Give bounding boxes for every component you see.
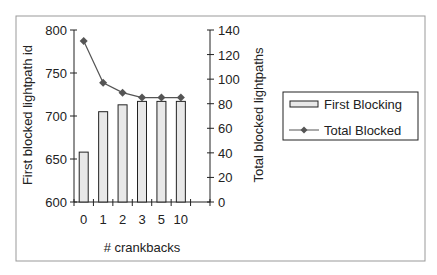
y-right-tick-label: 40 — [218, 146, 232, 161]
x-tick-label: 0 — [80, 212, 87, 227]
y-right-tick-label: 0 — [218, 195, 225, 210]
y-axis-left-label: First blocked lightpath id — [20, 45, 35, 185]
y-right-tick-label: 80 — [218, 97, 232, 112]
bar — [118, 105, 127, 202]
y-left-tick-label: 600 — [45, 195, 67, 210]
legend-bar-swatch — [290, 101, 318, 107]
bar — [157, 101, 166, 202]
y-right-tick-label: 100 — [218, 72, 240, 87]
x-tick-label: 5 — [158, 212, 165, 227]
x-axis-label: # crankbacks — [104, 240, 181, 255]
y-left-tick-label: 800 — [45, 23, 67, 38]
x-tick-label: 10 — [174, 212, 188, 227]
x-tick-label: 3 — [138, 212, 145, 227]
y-axis-right-label: Total blocked lightpaths — [251, 47, 266, 183]
bar — [176, 101, 185, 202]
bar — [79, 152, 88, 202]
y-right-tick-label: 60 — [218, 121, 232, 136]
y-right-tick-label: 20 — [218, 170, 232, 185]
y-right-tick-label: 140 — [218, 23, 240, 38]
legend-first-blocking: First Blocking — [324, 97, 402, 112]
bar — [99, 112, 108, 202]
y-right-tick-label: 120 — [218, 48, 240, 63]
y-left-tick-label: 750 — [45, 66, 67, 81]
x-tick-label: 2 — [119, 212, 126, 227]
chart: 6006507007508000204060801001201400123510… — [0, 0, 437, 275]
x-tick-label: 1 — [100, 212, 107, 227]
y-left-tick-label: 700 — [45, 109, 67, 124]
y-left-tick-label: 650 — [45, 152, 67, 167]
bar — [138, 101, 147, 202]
legend: First Blocking Total Blocked — [283, 92, 418, 140]
legend-total-blocked: Total Blocked — [324, 123, 401, 138]
